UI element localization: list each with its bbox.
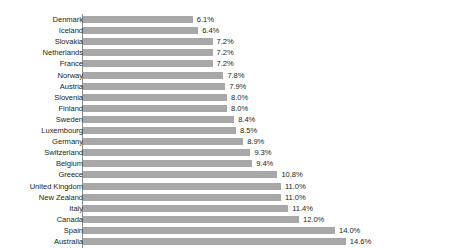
- bar: [83, 194, 281, 201]
- chart-row: Sweden8.4%: [0, 114, 449, 125]
- category-label: France: [0, 58, 83, 69]
- bar: [83, 183, 281, 190]
- bar: [83, 149, 250, 156]
- value-label: 11.0%: [285, 181, 306, 192]
- category-label: Italy: [0, 203, 83, 214]
- category-label: Finland: [0, 103, 83, 114]
- category-label: Greece: [0, 169, 83, 180]
- value-label: 14.6%: [350, 236, 371, 247]
- category-label: Australia: [0, 236, 83, 247]
- value-label: 9.3%: [254, 147, 271, 158]
- bar: [83, 83, 225, 90]
- chart-row: Iceland6.4%: [0, 25, 449, 36]
- chart-row: Norway7.8%: [0, 70, 449, 81]
- bar: [83, 205, 288, 212]
- chart-row: Germany8.9%: [0, 136, 449, 147]
- chart-row: United Kingdom11.0%: [0, 181, 449, 192]
- bar: [83, 238, 346, 245]
- chart-row: Switzerland9.3%: [0, 147, 449, 158]
- chart-row: France7.2%: [0, 58, 449, 69]
- clipped-text-artifact: [22, 0, 142, 4]
- value-label: 11.4%: [292, 203, 313, 214]
- value-label: 8.9%: [247, 136, 264, 147]
- value-label: 7.2%: [217, 47, 234, 58]
- value-label: 7.9%: [229, 81, 246, 92]
- category-label: Iceland: [0, 25, 83, 36]
- bar: [83, 16, 193, 23]
- chart-row: Canada12.0%: [0, 214, 449, 225]
- bar: [83, 127, 236, 134]
- category-label: Slovenia: [0, 92, 83, 103]
- chart-row: Netherlands7.2%: [0, 47, 449, 58]
- bar: [83, 27, 198, 34]
- value-label: 7.8%: [227, 70, 244, 81]
- category-label: Austria: [0, 81, 83, 92]
- category-label: Canada: [0, 214, 83, 225]
- value-label: 6.1%: [197, 14, 214, 25]
- bar-chart: Denmark6.1%Iceland6.4%Slovakia7.2%Nether…: [0, 0, 449, 248]
- value-label: 7.2%: [217, 36, 234, 47]
- chart-row: Denmark6.1%: [0, 14, 449, 25]
- category-label: Netherlands: [0, 47, 83, 58]
- category-label: Germany: [0, 136, 83, 147]
- chart-row: Austria7.9%: [0, 81, 449, 92]
- chart-row: Spain14.0%: [0, 225, 449, 236]
- value-label: 11.0%: [285, 192, 306, 203]
- chart-row: Italy11.4%: [0, 203, 449, 214]
- category-label: Switzerland: [0, 147, 83, 158]
- category-label: Belgium: [0, 158, 83, 169]
- chart-row: Greece10.8%: [0, 169, 449, 180]
- chart-row: Australia14.6%: [0, 236, 449, 247]
- category-label: Spain: [0, 225, 83, 236]
- value-label: 9.4%: [256, 158, 273, 169]
- chart-row: Belgium9.4%: [0, 158, 449, 169]
- category-label: United Kingdom: [0, 181, 83, 192]
- bar: [83, 94, 227, 101]
- value-label: 8.5%: [240, 125, 257, 136]
- bar: [83, 160, 252, 167]
- bar: [83, 38, 213, 45]
- value-label: 7.2%: [217, 58, 234, 69]
- chart-row: Slovenia8.0%: [0, 92, 449, 103]
- bar: [83, 49, 213, 56]
- bar: [83, 72, 223, 79]
- category-label: Norway: [0, 70, 83, 81]
- category-label: Luxembourg: [0, 125, 83, 136]
- bar: [83, 171, 277, 178]
- category-label: Sweden: [0, 114, 83, 125]
- chart-row: Slovakia7.2%: [0, 36, 449, 47]
- bar: [83, 105, 227, 112]
- bar: [83, 60, 213, 67]
- bar: [83, 227, 335, 234]
- value-label: 12.0%: [303, 214, 324, 225]
- category-label: Denmark: [0, 14, 83, 25]
- bar: [83, 216, 299, 223]
- bar: [83, 116, 234, 123]
- value-label: 8.0%: [231, 103, 248, 114]
- value-label: 8.0%: [231, 92, 248, 103]
- chart-row: Luxembourg8.5%: [0, 125, 449, 136]
- bar: [83, 138, 243, 145]
- plot-area: Denmark6.1%Iceland6.4%Slovakia7.2%Nether…: [0, 14, 449, 248]
- value-label: 8.4%: [238, 114, 255, 125]
- value-label: 10.8%: [281, 169, 302, 180]
- value-label: 6.4%: [202, 25, 219, 36]
- category-label: New Zealand: [0, 192, 83, 203]
- chart-row: New Zealand11.0%: [0, 192, 449, 203]
- value-label: 14.0%: [339, 225, 360, 236]
- category-label: Slovakia: [0, 36, 83, 47]
- chart-row: Finland8.0%: [0, 103, 449, 114]
